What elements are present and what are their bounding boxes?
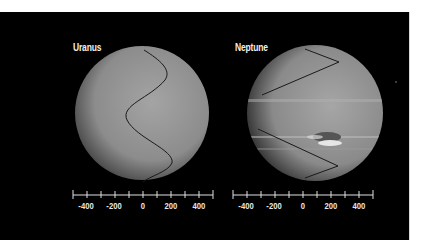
uranus-label: Uranus [73,42,101,53]
uranus-tick-label: -200 [106,201,121,211]
neptune-label: Neptune [235,42,268,53]
uranus-tick-label: 0 [141,201,145,211]
neptune-tick-label: 400 [353,201,366,211]
neptune-tick-label: 0 [301,201,305,211]
neptune-disk [245,45,385,181]
uranus-tick-label: 200 [165,201,178,211]
neptune-scale-bar [233,190,373,199]
uranus-scale-bar [73,190,213,199]
uranus-tick-label: -400 [78,201,93,211]
neptune-tick-label: -200 [266,201,281,211]
neptune-tick-label: -400 [238,201,253,211]
uranus-disk [75,46,209,182]
neptune-tick-label: 200 [325,201,338,211]
uranus-tick-label: 400 [193,201,206,211]
